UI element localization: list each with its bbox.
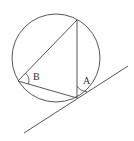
triangle-side-left-bottom [18,81,77,98]
angle-label-a: A [83,75,91,86]
geometry-diagram: B A [0,0,134,141]
triangle-side-left-top [18,20,77,81]
angle-arc-b [26,73,29,84]
circle [12,14,100,102]
angle-label-b: B [33,71,40,82]
